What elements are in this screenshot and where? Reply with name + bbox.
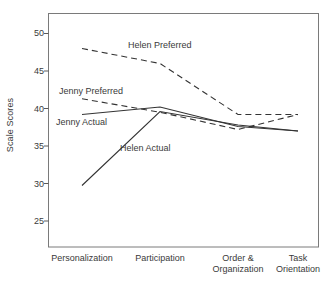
annotation-helen-preferred: Helen Preferred <box>128 40 192 50</box>
annotation-jenny-preferred: Jenny Preferred <box>59 86 123 96</box>
chart-figure: Scale Scores 50 45 40 35 30 25 Helen Pre… <box>0 0 335 287</box>
x-tick-label-participation: Participation <box>115 253 205 264</box>
y-tick-marks <box>44 34 49 222</box>
annotation-jenny-actual: Jenny Actual <box>56 117 107 127</box>
x-tick-label-task-orientation: Task Orientation <box>256 253 335 275</box>
series-line-helen-actual <box>82 112 298 186</box>
annotation-helen-actual: Helen Actual <box>120 143 171 153</box>
